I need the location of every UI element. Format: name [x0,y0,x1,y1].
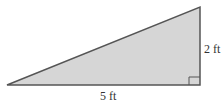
base-label: 5 ft [100,89,117,103]
triangle-diagram: 2 ft 5 ft [0,0,221,107]
right-triangle [7,7,200,85]
height-label: 2 ft [204,42,221,56]
